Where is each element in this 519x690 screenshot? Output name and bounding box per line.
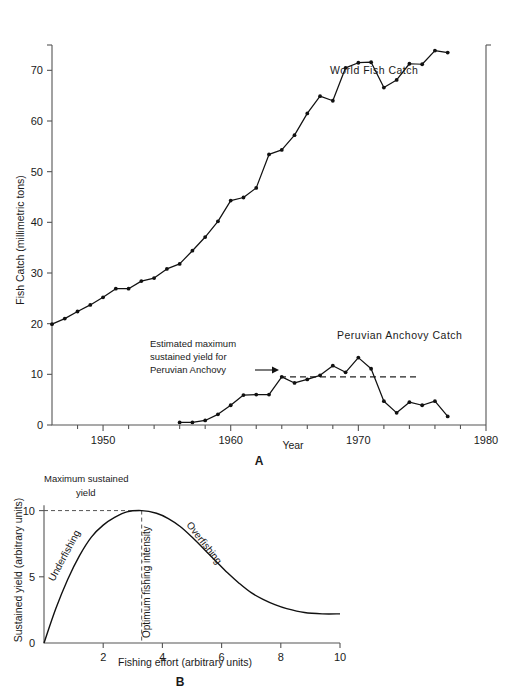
panel-b-label: B <box>176 675 185 689</box>
panel-a-x-tick-label: 1980 <box>474 434 498 446</box>
panel-a-series-group <box>50 49 450 425</box>
data-point <box>420 403 424 407</box>
figure-root: 0102030405060701950196019701980 Year Fis… <box>0 0 519 690</box>
data-point <box>331 99 335 103</box>
data-point <box>127 287 131 291</box>
data-point <box>344 370 348 374</box>
data-point <box>369 367 373 371</box>
data-point <box>229 403 233 407</box>
data-point <box>395 78 399 82</box>
msy-annotation-line-3: Peruvian Anchovy <box>150 364 226 375</box>
panel-a-y-tick-label: 20 <box>31 318 43 330</box>
panel-a-y-axis-title: Fish Catch (millimetric tons) <box>14 175 26 305</box>
world-fish-catch-label: World Fish Catch <box>330 64 418 76</box>
data-point <box>254 393 258 397</box>
panel-b-x-tick-label: 2 <box>100 651 106 663</box>
panel-b-y-tick-label: 5 <box>29 571 35 583</box>
panel-a-x-tick-label: 1970 <box>346 434 370 446</box>
data-point <box>191 421 195 425</box>
panel-a-y-tick-label: 70 <box>31 64 43 76</box>
data-point <box>446 414 450 418</box>
panel-a-chart: 0102030405060701950196019701980 Year Fis… <box>0 0 519 470</box>
data-point <box>63 317 67 321</box>
panel-a-x-tick-label: 1960 <box>218 434 242 446</box>
panel-b-y-tick-label: 0 <box>29 637 35 649</box>
data-point <box>305 112 309 116</box>
data-point <box>382 399 386 403</box>
data-point <box>433 49 437 53</box>
data-point <box>216 219 220 223</box>
panel-a-y-tick-label: 10 <box>31 368 43 380</box>
data-point <box>139 279 143 283</box>
data-point <box>165 267 169 271</box>
data-point <box>446 51 450 55</box>
data-series-line <box>52 51 448 325</box>
panel-a-x-tick-label: 1950 <box>91 434 115 446</box>
panel-a-y-tick-label: 60 <box>31 115 43 127</box>
panel-b-y-axis-title: Sustained yield (arbitrary units) <box>12 498 24 643</box>
panel-b-x-axis-title: Fishing effort (arbitrary units) <box>118 656 252 668</box>
data-point <box>178 421 182 425</box>
data-point <box>382 86 386 90</box>
panel-a-y-tick-label: 30 <box>31 267 43 279</box>
data-point <box>191 249 195 253</box>
data-point <box>203 235 207 239</box>
data-point <box>50 322 54 326</box>
underfishing-label: Underfishing <box>46 528 82 583</box>
data-point <box>280 375 284 379</box>
data-point <box>305 378 309 382</box>
panel-b-chart: 0510246810 Fishing effort (arbitrary uni… <box>0 460 519 690</box>
data-point <box>242 196 246 200</box>
data-point <box>203 419 207 423</box>
data-point <box>178 262 182 266</box>
msy-annotation-line-1: Estimated maximum <box>150 338 236 349</box>
panel-b-x-tick-label: 8 <box>278 651 284 663</box>
data-point <box>267 153 271 157</box>
overfishing-label: Overfishing <box>184 519 224 566</box>
optimum-fishing-intensity-label: Optimum fishing intensity <box>141 526 152 638</box>
data-point <box>420 62 424 66</box>
panel-a-x-axis-title: Year <box>282 439 304 451</box>
data-point <box>408 400 412 404</box>
panel-b-y-tick-label: 10 <box>23 505 35 517</box>
data-point <box>293 133 297 137</box>
data-point <box>242 393 246 397</box>
data-point <box>293 381 297 385</box>
data-point <box>433 399 437 403</box>
data-point <box>152 276 156 280</box>
panel-b-x-tick-label: 10 <box>334 651 346 663</box>
peruvian-anchovy-catch-label: Peruvian Anchovy Catch <box>337 329 462 341</box>
data-point <box>114 287 118 291</box>
data-point <box>88 303 92 307</box>
panel-a-y-tick-label: 40 <box>31 216 43 228</box>
data-point <box>216 412 220 416</box>
data-point <box>331 364 335 368</box>
maximum-sustained-yield-label-line-1: Maximum sustained <box>44 473 128 484</box>
panel-a-axis-frame <box>52 45 486 425</box>
data-point <box>280 148 284 152</box>
data-point <box>395 411 399 415</box>
data-point <box>356 356 360 360</box>
data-point <box>76 310 80 314</box>
data-point <box>229 199 233 203</box>
data-point <box>101 295 105 299</box>
msy-annotation-line-2: sustained yield for <box>150 351 227 362</box>
panel-a-tick-labels: 0102030405060701950196019701980 <box>31 64 498 446</box>
data-point <box>318 94 322 98</box>
panel-a-axes <box>47 45 491 431</box>
maximum-sustained-yield-label-line-2: yield <box>76 487 96 498</box>
panel-a-y-tick-label: 0 <box>37 419 43 431</box>
panel-a-y-tick-label: 50 <box>31 166 43 178</box>
data-point <box>267 393 271 397</box>
data-point <box>318 373 322 377</box>
msy-annotation-arrow-icon <box>255 367 279 374</box>
data-point <box>254 186 258 190</box>
